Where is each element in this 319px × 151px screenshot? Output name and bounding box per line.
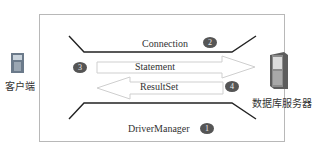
connection-label: Connection bbox=[142, 38, 188, 49]
statement-arrow bbox=[97, 56, 255, 78]
step-badge-2: 2 bbox=[203, 37, 217, 48]
client-label: 客户端 bbox=[5, 78, 35, 93]
resultset-label: ResultSet bbox=[140, 81, 178, 92]
database-server-icon bbox=[270, 52, 288, 89]
drivermanager-label: DriverManager bbox=[128, 123, 190, 134]
step-badge-1: 1 bbox=[200, 123, 214, 134]
client-computer-icon bbox=[11, 53, 24, 73]
step-badge-3: 3 bbox=[73, 62, 87, 73]
step-badge-4: 4 bbox=[225, 81, 239, 92]
server-label: 数据库服务器 bbox=[252, 95, 312, 110]
statement-label: Statement bbox=[135, 61, 175, 72]
